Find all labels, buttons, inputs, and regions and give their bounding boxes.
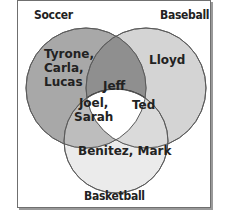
baseball-basketball-region-label: Ted (132, 99, 155, 112)
baseball-only-region-label: Lloyd (149, 54, 185, 67)
name-line: Carla, (44, 61, 94, 75)
basketball-only-region-label: Benitez, Mark (78, 145, 171, 158)
basketball-label: Basketball (84, 190, 145, 203)
name-line: Tyrone, (44, 47, 94, 61)
name-line: Sarah (74, 110, 113, 124)
all-three-region-label: Jeff (103, 80, 125, 93)
name-line: Joel, (74, 96, 113, 110)
soccer-basketball-region-label: Joel, Sarah (74, 96, 113, 124)
soccer-only-region-label: Tyrone, Carla, Lucas (44, 47, 94, 89)
baseball-label: Baseball (160, 9, 209, 22)
name-line: Lucas (44, 75, 94, 89)
soccer-label: Soccer (34, 9, 73, 22)
